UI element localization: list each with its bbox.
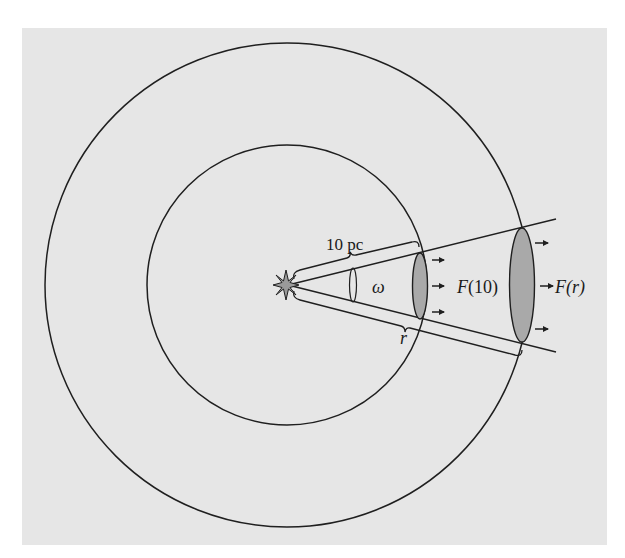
small-patch	[413, 253, 428, 319]
label-flux-10: F(10)	[456, 277, 498, 298]
brace-r	[294, 291, 522, 355]
label-omega: ω	[372, 277, 385, 297]
flux-diagram: 10 pc ω F(10) F(r) r	[0, 0, 625, 558]
flux-arrows-large	[535, 243, 553, 329]
label-flux-r: F(r)	[554, 277, 585, 298]
large-patch	[510, 228, 535, 342]
label-r: r	[400, 328, 408, 348]
star-icon	[273, 270, 299, 300]
label-10pc: 10 pc	[326, 235, 364, 254]
flux-arrows-small	[432, 260, 444, 312]
solid-angle-arc	[350, 268, 357, 302]
